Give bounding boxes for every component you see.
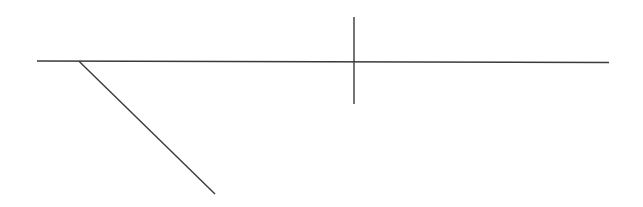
diagram-background (0, 0, 643, 207)
line-diagram (0, 0, 643, 207)
